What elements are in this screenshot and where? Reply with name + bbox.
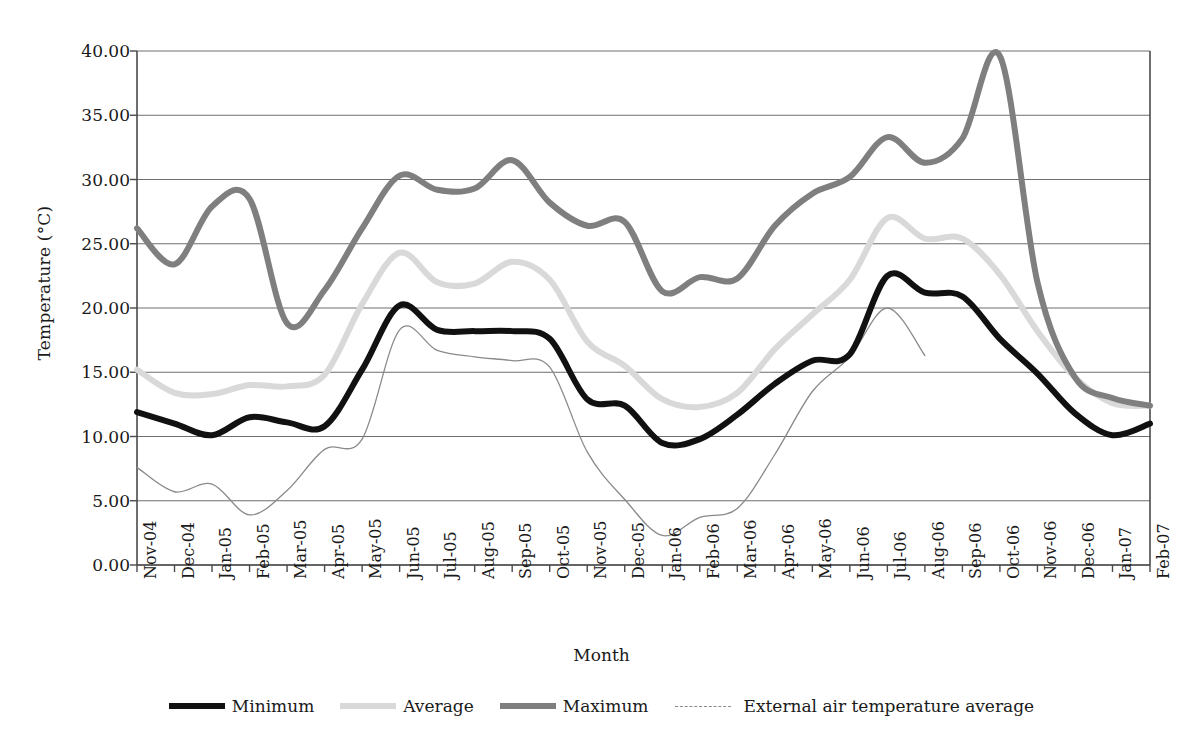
chart-legend: MinimumAverageMaximumExternal air temper… [0, 696, 1203, 716]
x-axis-title: Month [0, 645, 1203, 665]
legend-swatch [500, 703, 556, 709]
legend-item[interactable]: Average [340, 696, 473, 716]
plot-area [0, 0, 1203, 752]
x-axis-title-text: Month [573, 645, 629, 665]
series-line-maximum [137, 52, 1150, 406]
legend-label: Average [403, 696, 473, 716]
legend-item[interactable]: Minimum [169, 696, 314, 716]
series-line-average [137, 217, 1150, 407]
legend-label: External air temperature average [744, 696, 1035, 716]
temperature-line-chart: Temperature (°C) 0.005.0010.0015.0020.00… [0, 0, 1203, 752]
legend-swatch [169, 703, 225, 709]
legend-label: Maximum [563, 696, 649, 716]
legend-swatch [675, 706, 731, 707]
series-line-minimum [137, 273, 1150, 445]
legend-label: Minimum [232, 696, 314, 716]
series-line-external-air-temperature-average [137, 308, 925, 536]
legend-item[interactable]: Maximum [500, 696, 649, 716]
legend-swatch [340, 703, 396, 709]
legend-item[interactable]: External air temperature average [675, 696, 1035, 716]
